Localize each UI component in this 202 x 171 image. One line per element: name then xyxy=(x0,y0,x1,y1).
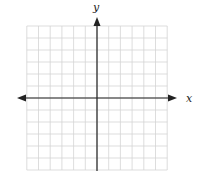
y-axis-up-arrow-icon xyxy=(94,17,101,26)
coordinate-plane: x y xyxy=(0,0,202,171)
x-axis-label: x xyxy=(186,92,193,105)
y-axis-label: y xyxy=(92,1,100,14)
x-axis-right-arrow-icon xyxy=(168,95,177,102)
x-axis-left-arrow-icon xyxy=(17,95,26,102)
